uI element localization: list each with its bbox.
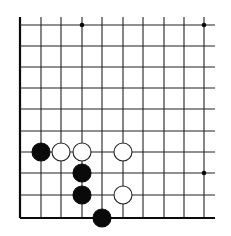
white-stone [114,143,132,161]
black-stone [73,164,91,182]
star-point [80,23,85,28]
black-stone [93,209,111,227]
black-stone [32,143,50,161]
black-stone [73,186,91,204]
white-stone [73,143,91,161]
white-stone [52,143,70,161]
white-stone [114,186,132,204]
star-point [202,171,207,176]
star-point [202,23,207,28]
go-board [0,0,231,236]
